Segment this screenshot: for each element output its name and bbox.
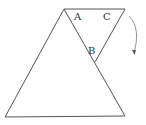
large-triangle xyxy=(5,9,125,117)
geometry-diagram: A C B xyxy=(0,0,146,125)
label-b: B xyxy=(88,45,95,56)
label-a: A xyxy=(73,11,82,22)
curved-arrow-icon xyxy=(129,16,137,55)
label-c: C xyxy=(103,11,111,22)
